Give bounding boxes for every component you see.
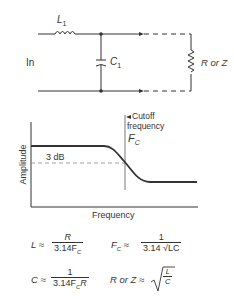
formula-fc-denominator: 3.14 √LC xyxy=(141,242,181,253)
arrow-top xyxy=(139,32,144,36)
cutoff-symbol: FC xyxy=(128,133,140,146)
formula-c-numerator: 1 xyxy=(65,268,74,277)
formula-rz-radical: L C xyxy=(150,265,176,293)
formula-c-lhs: C ≈ xyxy=(31,275,46,285)
formula-l-den-text: 3.14F xyxy=(54,243,77,253)
formula-rz-radicand-denominator: C xyxy=(163,276,172,286)
formula-rz-lhs: R or Z ≈ xyxy=(110,275,144,285)
formula-l-den-sub: C xyxy=(77,249,81,255)
x-axis-label: Frequency xyxy=(92,211,135,220)
resistor-zigzag xyxy=(188,50,194,72)
formula-l-denominator: 3.14FC xyxy=(52,242,83,255)
formula-rz-radicand-numerator: L xyxy=(164,268,172,276)
circuit-markers xyxy=(99,32,144,93)
formula-c-den-text: 3.14F xyxy=(53,278,76,288)
cutoff-label-line1: Cutoff xyxy=(132,112,155,121)
input-label: In xyxy=(26,58,34,68)
formula-rz-radicand: L C xyxy=(163,268,172,286)
formula-fc-numerator: 1 xyxy=(157,233,166,242)
junction-dot-top xyxy=(99,32,103,36)
formula-l-fraction: R 3.14FC xyxy=(52,233,83,256)
formula-c-fraction: 1 3.14FCR xyxy=(51,268,89,291)
formula-l-lhs: L ≈ xyxy=(31,240,44,250)
formula-fc-sub: C xyxy=(117,246,121,252)
inductor-label: L1 xyxy=(57,15,66,27)
inductor-subscript: 1 xyxy=(63,20,67,27)
diagram-lineart xyxy=(0,0,234,299)
load-label: R or Z xyxy=(201,58,227,68)
formula-fc-approx: ≈ xyxy=(124,239,129,250)
cutoff-symbol-subscript: C xyxy=(135,139,140,146)
cutoff-arrow xyxy=(126,115,131,119)
cutoff-label-line2: frequency xyxy=(127,122,164,131)
capacitor-subscript: 1 xyxy=(117,62,121,69)
formula-l-numerator: R xyxy=(62,233,73,242)
3db-label: 3 dB xyxy=(46,153,65,162)
arrow-bottom xyxy=(139,89,144,93)
capacitor-label: C1 xyxy=(110,57,121,69)
inductor-l1-coil xyxy=(55,32,78,35)
formula-fc-lhs: FC ≈ xyxy=(111,240,129,252)
formula-c-den-tail: R xyxy=(80,278,87,288)
junction-dot-bottom xyxy=(99,89,103,93)
formula-c-denominator: 3.14FCR xyxy=(51,277,89,290)
y-axis-label: Amplitude xyxy=(19,144,28,186)
cutoff-symbol-letter: F xyxy=(128,132,135,144)
formula-fc-fraction: 1 3.14 √LC xyxy=(141,233,181,254)
